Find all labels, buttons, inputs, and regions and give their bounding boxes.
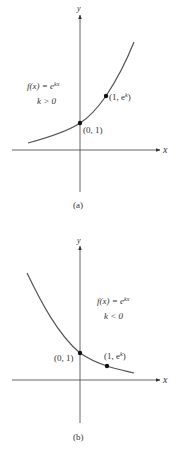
point-1-ek-a xyxy=(104,94,108,98)
panel-label-b: (b) xyxy=(73,432,84,442)
y-axis-label-a: y xyxy=(76,4,81,13)
point-0-1-a xyxy=(78,121,82,125)
y-axis-label-b: y xyxy=(76,236,81,245)
condition-b: k < 0 xyxy=(104,311,124,321)
panel-a: x y (0, 1) (1, ek) f(x) = ekx k > 0 (a) xyxy=(12,4,168,210)
formula-a: f(x) = ekx xyxy=(27,81,60,91)
point-label-0-1-b: (0, 1) xyxy=(54,353,74,363)
point-label-1-ek-a: (1, ek) xyxy=(109,92,131,102)
panel-label-a: (a) xyxy=(73,200,83,210)
x-axis-label-b: x xyxy=(162,374,168,385)
point-label-1-ek-b: (1, ek) xyxy=(104,351,126,361)
formula-b: f(x) = ekx xyxy=(97,296,130,306)
point-0-1-b xyxy=(78,351,82,355)
condition-a: k > 0 xyxy=(37,96,57,106)
point-label-0-1-a: (0, 1) xyxy=(83,125,103,135)
x-axis-label-a: x xyxy=(162,144,168,155)
panel-b: x y (0, 1) (1, ek) f(x) = ekx k < 0 (b) xyxy=(12,236,168,442)
point-1-ek-b xyxy=(105,364,109,368)
